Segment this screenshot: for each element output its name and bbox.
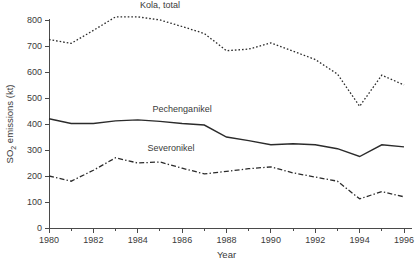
x-tick-label: 1986 <box>172 235 192 245</box>
x-tick-label: 1984 <box>128 235 148 245</box>
so2-emissions-line-chart: 0100200300400500600700800 19801982198419… <box>0 0 415 261</box>
x-tick-label: 1990 <box>261 235 281 245</box>
x-axis-ticks <box>49 228 404 233</box>
x-tick-label: 1988 <box>216 235 236 245</box>
y-tick-label: 400 <box>27 119 42 129</box>
x-tick-label: 1980 <box>39 235 59 245</box>
y-axis-title: SO2 emissions (kt) <box>4 85 17 164</box>
y-tick-label: 700 <box>27 41 42 51</box>
series-line-pechenganikel <box>49 119 404 157</box>
chart-container: 0100200300400500600700800 19801982198419… <box>0 0 415 261</box>
x-tick-label: 1992 <box>305 235 325 245</box>
y-tick-label: 300 <box>27 145 42 155</box>
data-series-group <box>49 17 404 199</box>
y-axis-title-base: SO <box>4 150 15 164</box>
y-tick-label: 500 <box>27 93 42 103</box>
y-tick-label: 800 <box>27 15 42 25</box>
series-inline-labels: Kola, totalPechenganikelSeveronikel <box>140 0 212 152</box>
x-tick-label: 1996 <box>394 235 414 245</box>
series-label-severonikel: Severonikel <box>148 143 195 153</box>
x-axis-tick-labels: 198019821984198619881990199219941996 <box>39 235 414 245</box>
y-axis-tick-labels: 0100200300400500600700800 <box>27 15 42 233</box>
y-axis-ticks <box>45 20 49 228</box>
series-label-kola-total: Kola, total <box>140 0 180 10</box>
y-tick-label: 200 <box>27 171 42 181</box>
y-axis-title-rest: emissions (kt) <box>4 85 15 146</box>
series-label-pechenganikel: Pechenganikel <box>153 104 212 114</box>
x-axis-title: Year <box>217 249 236 260</box>
y-tick-label: 100 <box>27 197 42 207</box>
series-line-severonikel <box>49 158 404 199</box>
y-tick-label: 0 <box>37 223 42 233</box>
x-tick-label: 1994 <box>350 235 370 245</box>
series-line-kola-total <box>49 17 404 106</box>
y-tick-label: 600 <box>27 67 42 77</box>
x-tick-label: 1982 <box>83 235 103 245</box>
